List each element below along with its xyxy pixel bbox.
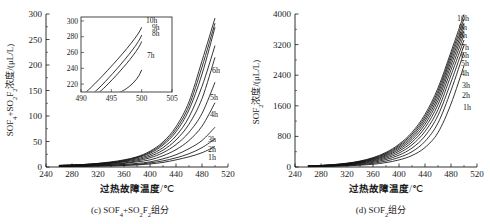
curve-2h [59, 139, 215, 167]
inset-y-tick-label: 300 [67, 17, 79, 26]
curve-9h [308, 19, 464, 166]
inset-y-tick-label: 240 [67, 64, 79, 73]
panel-c-sof4-so2f2: 0501001502002503002402803203604004404805… [0, 0, 245, 224]
y-tick-label: 4000 [273, 9, 292, 19]
y-tick-label: 800 [278, 131, 292, 141]
y-tick-label: 300 [29, 9, 43, 19]
x-tick-label: 440 [418, 169, 432, 179]
panel-d-caption: (d) SOF2组分 [356, 204, 407, 218]
inset-x-tick-label: 500 [136, 94, 148, 103]
inset-curve-9h [94, 35, 141, 92]
panel-c-svg: 0501001502002503002402803203604004404805… [0, 0, 245, 224]
x-tick-label: 240 [288, 169, 302, 179]
curve-7h [308, 27, 464, 166]
x-tick-label: 360 [117, 169, 131, 179]
curve-label-3h: 3h [208, 135, 216, 144]
x-tick-label: 400 [143, 169, 157, 179]
inset-curve-8h [99, 41, 141, 92]
x-tick-label: 360 [366, 169, 380, 179]
curve-5h [308, 35, 464, 166]
curve-label-2h: 2h [462, 91, 470, 100]
curve-label-6h: 6h [212, 66, 220, 75]
curve-label-1h: 1h [463, 103, 471, 112]
x-tick-label: 240 [39, 169, 53, 179]
inset-curve-7h [120, 70, 142, 92]
curve-label-4h: 4h [210, 110, 218, 119]
y-tick-label: 1600 [273, 101, 292, 111]
inset-x-tick-label: 495 [106, 94, 118, 103]
x-tick-label: 320 [91, 169, 105, 179]
x-tick-label: 320 [340, 169, 354, 179]
y-tick-label: 3200 [273, 40, 292, 50]
panel-d-ylabel: SOF2浓度/(μL/L) [250, 60, 264, 125]
inset-y-tick-label: 280 [67, 32, 79, 41]
x-tick-label: 440 [169, 169, 183, 179]
panel-c-ylabel: SOF4+SO2F2浓度/(μL/L) [4, 44, 18, 137]
x-tick-label: 400 [392, 169, 406, 179]
inset-curve-label-8h: 8h [152, 29, 160, 38]
curve-label-4h: 4h [461, 69, 469, 78]
y-tick-label: 250 [29, 35, 43, 45]
y-tick-label: 2400 [273, 70, 292, 80]
inset-curves [86, 27, 142, 92]
axis-spines [295, 14, 477, 167]
x-tick-label: 520 [221, 169, 235, 179]
curve-label-3h: 3h [462, 81, 470, 90]
x-tick-label: 280 [65, 169, 79, 179]
x-tick-label: 480 [195, 169, 209, 179]
curve-3h [308, 45, 464, 166]
curve-label-5h: 5h [210, 93, 218, 102]
panel-d-svg: 0800160024003200400024028032036040044048… [245, 0, 490, 224]
panel-c-xlabel: 过热故障温度/℃ [100, 183, 174, 194]
y-tick-label: 50 [33, 137, 43, 147]
curve-label-8h: 8h [459, 31, 467, 40]
y-tick-label: 200 [29, 60, 43, 70]
curve-4h [308, 40, 464, 166]
y-tick-label: 100 [29, 111, 43, 121]
inset-curve-label-7h: 7h [147, 51, 155, 60]
x-tick-label: 480 [444, 169, 458, 179]
y-tick-label: 150 [29, 86, 43, 96]
curve-label-2h: 2h [208, 145, 216, 154]
curve-label-1h: 1h [208, 153, 216, 162]
panel-d-xlabel: 过热故障温度/℃ [349, 183, 423, 194]
panel-c-caption: (c) SOF4+SO2F2组分 [91, 204, 169, 218]
inset-y-tick-label: 260 [67, 48, 79, 57]
x-tick-label: 520 [470, 169, 484, 179]
inset-x-tick-label: 490 [75, 94, 87, 103]
panel-d-sof2: 0800160024003200400024028032036040044048… [245, 0, 490, 224]
inset-x-tick-label: 505 [166, 94, 178, 103]
curve-label-10h: 10h [457, 14, 469, 23]
x-tick-label: 280 [314, 169, 328, 179]
inset-y-tick-label: 220 [67, 80, 79, 89]
figure-container: 0501001502002503002402803203604004404805… [0, 0, 490, 224]
curve-label-5h: 5h [461, 59, 469, 68]
